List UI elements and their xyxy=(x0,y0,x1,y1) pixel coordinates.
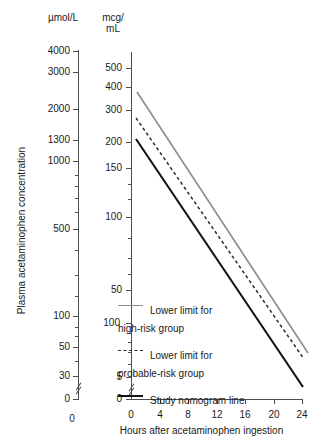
x-axis-title: Hours after acetaminophen ingestion xyxy=(80,425,323,436)
legend-swatch-solid-black-icon xyxy=(118,395,143,397)
legend-item-high-risk: Lower limit for high-risk group xyxy=(118,300,268,336)
legend-label-high-risk: Lower limit for high-risk group xyxy=(118,305,212,334)
legend-label-study-nomogram: Study nomogram line xyxy=(150,395,245,406)
nomogram-figure: µmol/L mcg/ mL Plasma acetaminophen conc… xyxy=(0,0,323,443)
legend-item-probable-risk: Lower limit for probable-risk group xyxy=(118,345,268,381)
legend: Lower limit for high-risk group Lower li… xyxy=(118,300,268,417)
legend-swatch-dashed-icon xyxy=(118,350,143,351)
legend-item-study-nomogram: Study nomogram line xyxy=(118,390,268,408)
legend-label-probable-risk: Lower limit for probable-risk group xyxy=(118,350,212,379)
legend-swatch-solid-gray-icon xyxy=(118,305,143,306)
